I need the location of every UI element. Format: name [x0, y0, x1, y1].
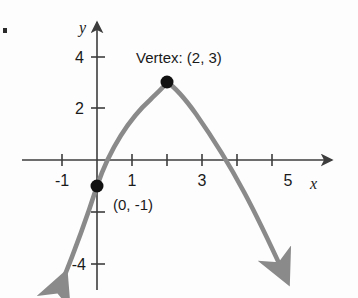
- x-tick-label-1: 1: [128, 172, 137, 189]
- x-tick-label-neg1: -1: [55, 172, 69, 189]
- vertex-point: [161, 76, 174, 89]
- x-axis-label: x: [309, 175, 317, 192]
- graph-canvas: -1 1 3 5 4 2 -4 x y Vertex: (2, 3) (0, -…: [0, 0, 358, 298]
- y-axis-label: y: [77, 19, 87, 37]
- y-axis: [91, 22, 105, 290]
- y-tick-label-4: 4: [75, 49, 84, 66]
- parabola-figure: -1 1 3 5 4 2 -4 x y Vertex: (2, 3) (0, -…: [0, 0, 358, 298]
- y-tick-label-neg4: -4: [72, 256, 86, 273]
- intercept-annotation: (0, -1): [113, 196, 153, 213]
- x-axis: [22, 154, 332, 166]
- vertex-annotation: Vertex: (2, 3): [136, 49, 222, 66]
- x-tick-label-5: 5: [284, 172, 293, 189]
- y-tick-label-2: 2: [75, 100, 84, 117]
- y-intercept-point: [91, 180, 104, 193]
- x-tick-label-3: 3: [198, 172, 207, 189]
